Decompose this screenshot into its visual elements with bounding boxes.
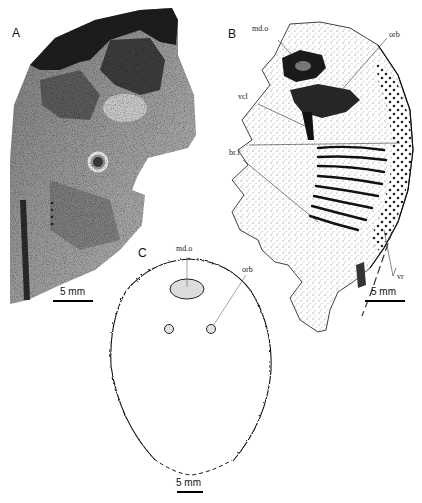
scale-label-c: 5 mm: [176, 477, 201, 488]
label-c-orb: orb: [242, 265, 253, 274]
label-c-mdo: md.o: [176, 244, 192, 253]
outline-reconstruction: [0, 0, 422, 503]
scale-bar-c: [177, 491, 203, 493]
